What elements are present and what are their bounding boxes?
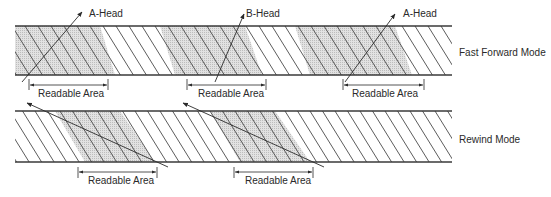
- track-line: [173, 111, 205, 162]
- a-head-label: A-Head: [89, 8, 123, 19]
- readable-area-dimension: Readable Area: [29, 79, 108, 99]
- readable-area-dimension: Readable Area: [234, 167, 313, 186]
- track-line: [335, 111, 367, 162]
- track-line: [0, 111, 29, 162]
- track-line: [373, 111, 405, 162]
- readable-area-dimension: Readable Area: [343, 79, 424, 99]
- track-line: [415, 26, 445, 75]
- track-line: [323, 111, 355, 162]
- fast-forward-mode: A-Head B-Head A-Head Readable Area Reada…: [0, 8, 546, 99]
- track-line: [310, 111, 342, 162]
- track-line: [385, 111, 417, 162]
- track-line: [160, 111, 192, 162]
- track-line: [360, 111, 392, 162]
- track-line: [0, 111, 4, 162]
- track-line: [428, 26, 458, 75]
- shaded-region: [295, 26, 412, 75]
- track-line: [259, 26, 289, 75]
- readable-area-label: Readable Area: [38, 88, 105, 99]
- track-line: [0, 26, 3, 75]
- readable-area-dimension: Readable Area: [78, 167, 157, 186]
- track-line: [10, 111, 42, 162]
- readable-area-label: Readable Area: [198, 88, 265, 99]
- shaded-region: [160, 26, 262, 75]
- track-line: [23, 111, 55, 162]
- track-line: [410, 111, 442, 162]
- track-line: [398, 111, 430, 162]
- track-line: [185, 111, 217, 162]
- track-line: [148, 111, 180, 162]
- tape-track-diagram: A-Head B-Head A-Head Readable Area Reada…: [0, 0, 551, 197]
- a-head-label: A-Head: [403, 8, 437, 19]
- rewind-mode: Readable Area Readable Area Rewind Mode: [0, 103, 521, 186]
- track-line: [423, 111, 455, 162]
- track-line: [129, 26, 159, 75]
- track-line: [116, 26, 146, 75]
- readable-area-label: Readable Area: [245, 175, 312, 186]
- track-line: [348, 111, 380, 162]
- b-head-label: B-Head: [246, 8, 280, 19]
- readable-area-label: Readable Area: [88, 175, 155, 186]
- readable-area-label: Readable Area: [352, 88, 419, 99]
- readable-area-dimension: Readable Area: [187, 79, 266, 99]
- track-line: [0, 26, 16, 75]
- track-line: [0, 111, 17, 162]
- shaded-region: [210, 111, 310, 162]
- mode-label: Rewind Mode: [459, 134, 521, 145]
- mode-label: Fast Forward Mode: [459, 47, 546, 58]
